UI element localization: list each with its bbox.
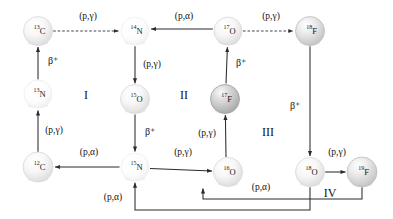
reaction-label-r13: (p,γ) bbox=[328, 147, 346, 158]
node-circle bbox=[296, 158, 325, 187]
nuclide-node-f19: 19F bbox=[347, 157, 377, 187]
arrow-f17-to-o17 bbox=[226, 47, 227, 83]
nuclide-node-c13: 13C bbox=[24, 17, 53, 46]
reaction-label-r8: (p,γ) bbox=[198, 128, 216, 139]
nuclide-node-f17: 17F bbox=[211, 85, 240, 114]
nuclide-node-o17: 17O bbox=[214, 17, 242, 45]
node-circle bbox=[121, 17, 149, 45]
node-circle bbox=[23, 152, 53, 182]
cycle-1-label: I bbox=[84, 88, 88, 102]
reaction-label-r9: β⁺ bbox=[236, 57, 246, 68]
cycle-4-label: IV bbox=[324, 186, 337, 200]
node-circle bbox=[214, 17, 242, 45]
node-circle bbox=[24, 17, 53, 46]
node-circle bbox=[211, 85, 240, 114]
node-circle bbox=[214, 158, 243, 187]
arrow-n15-to-o16 bbox=[150, 169, 212, 172]
nuclide-node-c12: 12C bbox=[23, 152, 53, 182]
arrow-o16-to-f17 bbox=[225, 115, 226, 157]
nuclide-node-n13: 13N bbox=[24, 80, 52, 108]
reaction-label-r2: β⁺ bbox=[48, 55, 58, 66]
reaction-label-r15: (p,α) bbox=[104, 192, 122, 203]
reaction-label-r12: β⁺ bbox=[290, 100, 300, 111]
node-circle bbox=[121, 153, 149, 181]
cycle-3-label: III bbox=[262, 125, 274, 139]
reaction-label-r14: (p,α) bbox=[252, 182, 270, 193]
arrow-o18-to-n15 bbox=[135, 183, 310, 210]
nuclide-node-f18: 18F bbox=[296, 17, 325, 46]
diagram-canvas: 13C14N17O18F13N15O17F12C15N16O18O19F (p,… bbox=[0, 0, 393, 219]
reaction-label-r6: (p,α) bbox=[80, 147, 98, 158]
reaction-label-r7: (p,γ) bbox=[174, 147, 192, 158]
reaction-label-r11: (p,γ) bbox=[262, 11, 280, 22]
reaction-label-r5: β⁺ bbox=[145, 126, 155, 137]
node-circle bbox=[24, 80, 52, 108]
reaction-label-r1: (p,γ) bbox=[45, 125, 63, 136]
reaction-label-r4: (p,γ) bbox=[143, 59, 161, 70]
nuclide-node-o15: 15O bbox=[121, 85, 150, 114]
reaction-label-r10: (p,α) bbox=[175, 11, 193, 22]
cycle-2-label: II bbox=[180, 88, 188, 102]
nuclide-node-o18: 18O bbox=[296, 158, 325, 187]
reaction-label-r3: (p,γ) bbox=[79, 11, 97, 22]
nuclide-nodes-layer: 13C14N17O18F13N15O17F12C15N16O18O19F bbox=[23, 17, 377, 188]
nuclide-node-n15: 15N bbox=[121, 153, 149, 181]
node-circle bbox=[121, 85, 150, 114]
node-circle bbox=[296, 17, 325, 46]
nuclide-node-o16: 16O bbox=[214, 158, 243, 187]
arrow-f19-to-o16 bbox=[203, 187, 362, 199]
nuclide-node-n14: 14N bbox=[121, 17, 149, 45]
node-circle bbox=[347, 157, 377, 187]
cno-cycle-diagram: 13C14N17O18F13N15O17F12C15N16O18O19F (p,… bbox=[0, 0, 393, 219]
